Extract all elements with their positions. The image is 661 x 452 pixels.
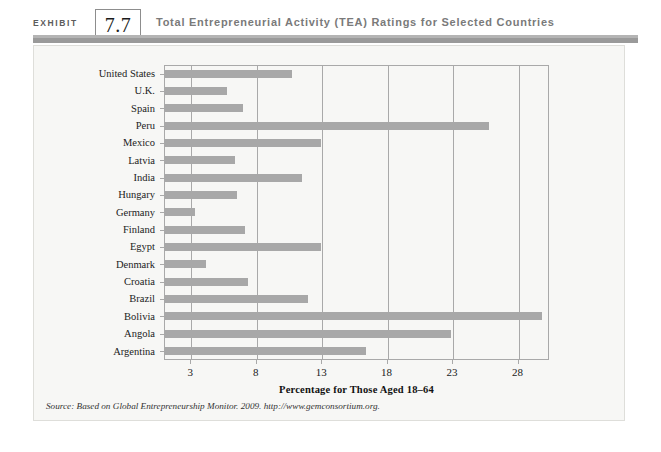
bar-row (164, 308, 549, 325)
x-tick-label: 28 (512, 366, 523, 378)
x-tick-mark (518, 360, 519, 364)
bar-row (164, 117, 549, 134)
source-note: Source: Based on Global Entrepreneurship… (46, 401, 380, 411)
y-axis-label: Brazil (34, 290, 160, 307)
y-axis-label: India (34, 169, 160, 186)
y-axis-label: Denmark (34, 256, 160, 273)
bar (164, 260, 206, 268)
bar (164, 191, 237, 199)
y-axis-label: Argentina (34, 343, 160, 360)
y-axis-label: Bolivia (34, 308, 160, 325)
bar (164, 70, 292, 78)
bar (164, 174, 302, 182)
y-axis-label: Hungary (34, 186, 160, 203)
bar-series (164, 65, 549, 360)
bar (164, 139, 321, 147)
exhibit-figure: EXHIBIT 7.7 Total Entrepreneurial Activi… (0, 0, 661, 452)
bar-row (164, 256, 549, 273)
y-axis-label: Germany (34, 204, 160, 221)
bar (164, 122, 489, 130)
x-tick-label: 18 (381, 366, 392, 378)
bar-row (164, 238, 549, 255)
x-tick-mark (387, 360, 388, 364)
bar (164, 278, 248, 286)
bar-row (164, 343, 549, 360)
bar (164, 330, 451, 338)
chart-panel: United StatesU.K.SpainPeruMexicoLatviaIn… (33, 45, 625, 421)
x-axis-ticks: 3813182328 (164, 360, 549, 380)
y-axis-label: Latvia (34, 152, 160, 169)
exhibit-number: 7.7 (105, 15, 132, 35)
bar-row (164, 65, 549, 82)
bar (164, 226, 245, 234)
y-axis-label: Croatia (34, 273, 160, 290)
x-tick-mark (452, 360, 453, 364)
bar (164, 87, 227, 95)
bar-row (164, 169, 549, 186)
exhibit-title: Total Entrepreneurial Activity (TEA) Rat… (156, 16, 555, 28)
x-tick-label: 13 (316, 366, 327, 378)
bar-row (164, 152, 549, 169)
y-axis-label: Peru (34, 117, 160, 134)
bar (164, 208, 195, 216)
x-tick-mark (321, 360, 322, 364)
bar-row (164, 290, 549, 307)
exhibit-header: EXHIBIT 7.7 Total Entrepreneurial Activi… (33, 13, 638, 35)
bar (164, 156, 235, 164)
bar-row (164, 221, 549, 238)
x-tick-mark (190, 360, 191, 364)
plot-area: United StatesU.K.SpainPeruMexicoLatviaIn… (34, 46, 626, 422)
bar (164, 312, 542, 320)
header-rule (33, 35, 638, 43)
bar (164, 243, 321, 251)
y-axis-label: United States (34, 65, 160, 82)
y-axis-label: Egypt (34, 238, 160, 255)
bar (164, 104, 243, 112)
x-tick-label: 3 (187, 366, 193, 378)
x-axis-title: Percentage for Those Aged 18–64 (164, 384, 549, 395)
y-axis-category-labels: United StatesU.K.SpainPeruMexicoLatviaIn… (34, 65, 160, 360)
x-tick-mark (256, 360, 257, 364)
bar-row (164, 82, 549, 99)
bar-row (164, 273, 549, 290)
bar (164, 347, 366, 355)
header-rule-highlight (33, 35, 638, 38)
bar-row (164, 204, 549, 221)
bar-row (164, 100, 549, 117)
y-axis-label: Spain (34, 100, 160, 117)
y-axis-label: Angola (34, 325, 160, 342)
y-axis-label: Finland (34, 221, 160, 238)
y-axis-label: Mexico (34, 134, 160, 151)
exhibit-label: EXHIBIT (33, 18, 78, 28)
x-tick-label: 23 (447, 366, 458, 378)
bar-row (164, 186, 549, 203)
x-tick-label: 8 (253, 366, 259, 378)
y-axis-label: U.K. (34, 82, 160, 99)
bar-row (164, 325, 549, 342)
bar (164, 295, 308, 303)
bar-row (164, 134, 549, 151)
